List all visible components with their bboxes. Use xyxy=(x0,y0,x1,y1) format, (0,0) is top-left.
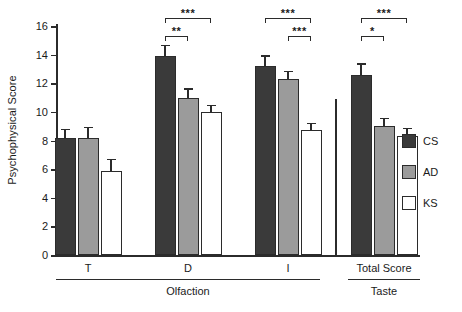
x-axis-line xyxy=(56,255,420,257)
error-bar-cap xyxy=(84,127,93,128)
plot-area xyxy=(56,26,416,255)
chart-figure: Psychophysical Score 0246810121416 TDITo… xyxy=(0,0,462,312)
legend-item-ks: KS xyxy=(402,196,456,210)
error-bar-cap xyxy=(161,45,170,46)
legend-item-ad: AD xyxy=(402,165,456,179)
group-underline xyxy=(348,279,420,280)
bar-ad-t xyxy=(78,138,99,255)
y-tick-mark xyxy=(51,26,56,28)
error-bar-cap xyxy=(403,128,412,129)
bar-cs-i xyxy=(255,66,276,255)
bar-cs-t xyxy=(55,138,76,255)
error-bar xyxy=(87,127,88,138)
legend-swatch-ad xyxy=(402,165,416,179)
y-tick-mark xyxy=(51,198,56,200)
error-bar-cap xyxy=(184,88,193,89)
error-bar-cap xyxy=(207,105,216,106)
legend-label-ad: AD xyxy=(423,166,438,178)
y-tick-label: 16 xyxy=(2,20,48,32)
significance-stars: *** xyxy=(361,7,407,19)
bar-cs-total-score xyxy=(351,75,372,255)
error-bar xyxy=(264,55,265,66)
y-tick-mark xyxy=(51,169,56,171)
significance-stars: *** xyxy=(288,25,311,37)
y-tick-label: 12 xyxy=(2,77,48,89)
error-bar-cap xyxy=(61,129,70,130)
error-bar xyxy=(164,45,165,56)
significance-stars: *** xyxy=(165,7,211,19)
legend-label-cs: CS xyxy=(423,135,438,147)
error-bar xyxy=(187,88,188,97)
legend-label-ks: KS xyxy=(423,197,438,209)
bar-ks-d xyxy=(201,112,222,255)
y-tick-label: 0 xyxy=(2,249,48,261)
y-tick-mark xyxy=(51,55,56,57)
category-label-total-score: Total Score xyxy=(356,262,411,274)
error-bar-cap xyxy=(284,71,293,72)
y-tick-label: 10 xyxy=(2,106,48,118)
significance-stars: *** xyxy=(265,7,311,19)
y-tick-label: 6 xyxy=(2,163,48,175)
figure-footer-strip xyxy=(0,296,462,312)
significance-stars: * xyxy=(361,25,384,37)
y-tick-label: 2 xyxy=(2,220,48,232)
error-bar xyxy=(360,63,361,74)
error-bar-cap xyxy=(357,63,366,64)
bar-ad-i xyxy=(278,79,299,255)
y-tick-label: 4 xyxy=(2,192,48,204)
y-tick-mark xyxy=(51,112,56,114)
error-bar-cap xyxy=(307,123,316,124)
y-tick-mark xyxy=(51,83,56,85)
y-tick-label: 14 xyxy=(2,49,48,61)
y-tick-mark xyxy=(51,141,56,143)
group-underline xyxy=(56,279,320,280)
legend-swatch-ks xyxy=(402,196,416,210)
bar-ks-i xyxy=(301,130,322,255)
category-label-d: D xyxy=(184,262,192,274)
legend-item-cs: CS xyxy=(402,134,456,148)
significance-stars: ** xyxy=(165,25,188,37)
legend-swatch-cs xyxy=(402,134,416,148)
error-bar-cap xyxy=(261,55,270,56)
error-bar-cap xyxy=(107,159,116,160)
bar-ad-d xyxy=(178,98,199,255)
section-divider xyxy=(335,99,337,255)
category-label-t: T xyxy=(85,262,92,274)
bar-ks-t xyxy=(101,171,122,255)
y-tick-mark xyxy=(51,255,56,257)
legend: CS AD KS xyxy=(402,134,456,227)
bar-cs-d xyxy=(155,56,176,255)
category-label-i: I xyxy=(286,262,289,274)
y-tick-mark xyxy=(51,226,56,228)
error-bar xyxy=(110,159,111,170)
bar-ad-total-score xyxy=(374,126,395,255)
error-bar-cap xyxy=(380,118,389,119)
y-tick-label: 8 xyxy=(2,135,48,147)
